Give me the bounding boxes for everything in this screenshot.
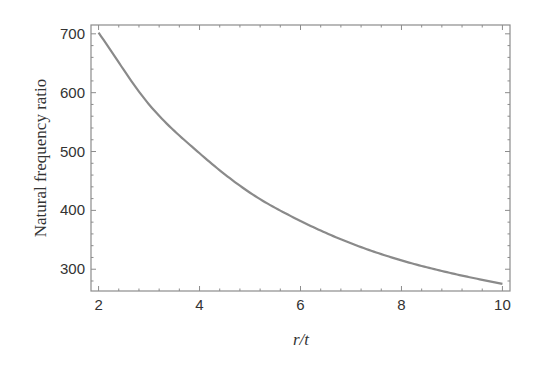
axis-ticks	[91, 25, 510, 291]
plot-frame	[91, 25, 510, 291]
y-tick-label: 500	[60, 143, 85, 160]
x-axis-label: r/t	[293, 330, 310, 349]
chart: 246810 300400500600700 r/t Natural frequ…	[0, 0, 539, 365]
x-tick-label: 10	[494, 296, 511, 313]
x-tick-label: 6	[296, 296, 304, 313]
y-axis-label: Natural frequency ratio	[31, 79, 50, 238]
x-tick-labels: 246810	[94, 296, 510, 313]
y-tick-label: 700	[60, 25, 85, 42]
x-tick-label: 4	[195, 296, 203, 313]
y-tick-labels: 300400500600700	[60, 25, 85, 277]
x-tick-label: 2	[94, 296, 102, 313]
y-tick-label: 400	[60, 201, 85, 218]
y-tick-label: 600	[60, 84, 85, 101]
y-tick-label: 300	[60, 260, 85, 277]
x-tick-label: 8	[397, 296, 405, 313]
data-curve	[99, 33, 503, 284]
